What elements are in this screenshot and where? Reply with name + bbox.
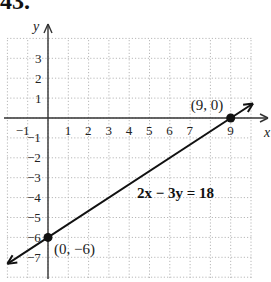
x-tick-label: 2 <box>85 123 92 138</box>
y-tick-label: −4 <box>27 190 41 205</box>
point-label: (0, −6) <box>54 241 95 258</box>
y-axis-label: y <box>31 19 40 34</box>
x-tick-label: 3 <box>105 123 112 138</box>
x-tick-label: 6 <box>166 123 173 138</box>
y-tick-label: −3 <box>27 170 41 185</box>
x-tick-label: 1 <box>65 123 72 138</box>
x-tick-label: 5 <box>146 123 153 138</box>
y-tick-label: 2 <box>35 71 42 86</box>
grid <box>7 38 252 279</box>
x-tick-label: 4 <box>126 123 133 138</box>
x-tick-label: 9 <box>227 123 234 138</box>
y-tick-label: −1 <box>27 130 41 145</box>
y-tick-label: −2 <box>27 150 41 165</box>
y-tick-label: 1 <box>35 91 42 106</box>
y-tick-label: −5 <box>27 210 41 225</box>
x-axis-label: x <box>263 125 271 140</box>
x-tick-label: 7 <box>187 123 194 138</box>
point-label: (9, 0) <box>191 97 224 114</box>
intercept-point <box>44 233 53 242</box>
graph: xy −112345679321−1−2−3−4−5−6−7 (9, 0)(0,… <box>0 0 271 282</box>
y-tick-label: 3 <box>35 51 42 66</box>
equation-label: 2x − 3y = 18 <box>137 185 214 201</box>
y-tick-label: −7 <box>27 250 41 265</box>
intercept-point <box>226 114 235 123</box>
